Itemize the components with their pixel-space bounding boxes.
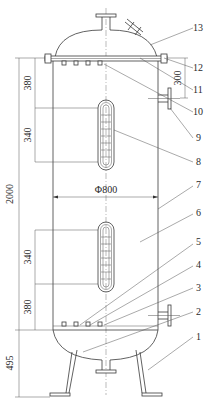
diameter-dimension	[53, 196, 158, 199]
callout-7: 7	[196, 179, 201, 190]
dim-lower-340: 340	[22, 250, 33, 265]
dim-top-380: 380	[22, 76, 33, 91]
callout-9: 9	[196, 132, 201, 143]
callout-2: 2	[196, 306, 201, 317]
callout-12: 12	[193, 62, 203, 73]
vessel-diagram: Φ800	[0, 0, 212, 411]
dim-leg-495: 495	[4, 356, 15, 371]
dim-overall-height: 2000	[4, 184, 15, 204]
diameter-label: Φ800	[95, 184, 117, 195]
bottom-head	[53, 330, 158, 360]
upper-distribution-nozzles	[62, 61, 102, 65]
dimension-lines	[15, 58, 188, 397]
bottom-plate	[53, 322, 158, 330]
side-nozzle-upper	[148, 88, 180, 109]
angled-nozzle	[125, 19, 143, 35]
callout-4: 4	[196, 259, 201, 270]
callout-11: 11	[193, 84, 203, 95]
side-nozzle-lower	[148, 305, 180, 326]
dim-bottom-380: 380	[22, 300, 33, 315]
callout-3: 3	[196, 282, 201, 293]
callout-6: 6	[196, 207, 201, 218]
callout-1: 1	[196, 331, 201, 342]
callout-10: 10	[193, 106, 203, 117]
dim-upper-340: 340	[22, 128, 33, 143]
callout-5: 5	[196, 236, 201, 247]
callout-8: 8	[196, 156, 201, 167]
callout-13: 13	[193, 22, 203, 33]
